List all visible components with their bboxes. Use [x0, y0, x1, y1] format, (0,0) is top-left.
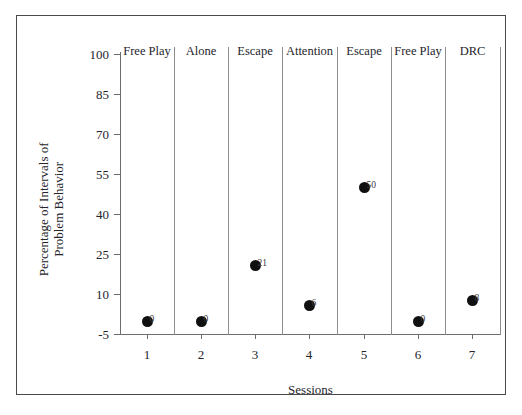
x-tick-label-2: 2 [186, 348, 216, 361]
x-tick-mark-7 [472, 334, 473, 339]
x-tick-mark-5 [364, 334, 365, 339]
phase-divider-2 [228, 47, 229, 335]
phase-divider-4 [337, 47, 338, 335]
data-point-label-session-5: 50 [367, 181, 377, 191]
phase-label-escape-2: Escape [337, 45, 391, 58]
x-tick-mark-1 [147, 334, 148, 339]
data-point-label-session-1: 0 [150, 315, 155, 325]
data-point-label-session-3: 21 [258, 259, 268, 269]
data-point-label-session-2: 0 [204, 315, 209, 325]
data-point-session-1[interactable]: 0 [142, 316, 153, 327]
x-tick-label-7: 7 [457, 348, 487, 361]
x-tick-mark-6 [418, 334, 419, 339]
phase-divider-7 [500, 47, 501, 335]
y-tick-label-100: 100 [69, 48, 109, 61]
y-tick-label-minus5: -5 [69, 328, 109, 341]
y-tick-label-85: 85 [69, 88, 109, 101]
phase-label-escape-1: Escape [228, 45, 282, 58]
phase-label-free-play-1: Free Play [120, 45, 174, 58]
y-axis-title-line-1: Percentage of Intervals of [36, 109, 51, 309]
x-tick-mark-3 [255, 334, 256, 339]
phase-label-drc: DRC [445, 45, 500, 58]
data-point-session-4[interactable]: 6 [304, 300, 315, 311]
y-axis-line [120, 52, 121, 335]
x-axis-title: Sessions [120, 382, 501, 398]
data-point-label-session-7: 8 [475, 294, 480, 304]
x-tick-label-5: 5 [349, 348, 379, 361]
phase-divider-5 [391, 47, 392, 335]
data-point-session-2[interactable]: 0 [196, 316, 207, 327]
x-tick-mark-2 [201, 334, 202, 339]
y-tick-label-55: 55 [69, 168, 109, 181]
y-axis-title-line-2: Problem Behavior [51, 109, 66, 309]
x-tick-label-3: 3 [240, 348, 270, 361]
phase-label-attention: Attention [282, 45, 337, 58]
x-tick-label-1: 1 [132, 348, 162, 361]
y-tick-label-70: 70 [69, 128, 109, 141]
x-tick-label-6: 6 [403, 348, 433, 361]
x-tick-label-4: 4 [294, 348, 324, 361]
y-tick-label-10: 10 [69, 288, 109, 301]
y-tick-label-40: 40 [69, 208, 109, 221]
y-axis-tick-labels: 100 85 70 55 40 25 10 -5 [69, 16, 109, 415]
phase-divider-1 [174, 47, 175, 335]
data-point-label-session-6: 0 [421, 315, 426, 325]
phase-label-free-play-2: Free Play [391, 45, 445, 58]
phase-label-alone: Alone [174, 45, 228, 58]
data-point-session-7[interactable]: 8 [467, 295, 478, 306]
data-point-label-session-4: 6 [312, 299, 317, 309]
data-point-session-5[interactable]: 50 [359, 182, 370, 193]
phase-divider-3 [282, 47, 283, 335]
phase-divider-6 [445, 47, 446, 335]
data-point-session-3[interactable]: 21 [250, 260, 261, 271]
x-axis-line [120, 334, 501, 335]
data-point-session-6[interactable]: 0 [413, 316, 424, 327]
x-tick-mark-4 [309, 334, 310, 339]
y-tick-label-25: 25 [69, 248, 109, 261]
figure-frame: 100 85 70 55 40 25 10 -5 Free Play Alone… [16, 15, 506, 395]
y-axis-title: Percentage of Intervals of Problem Behav… [36, 109, 67, 309]
